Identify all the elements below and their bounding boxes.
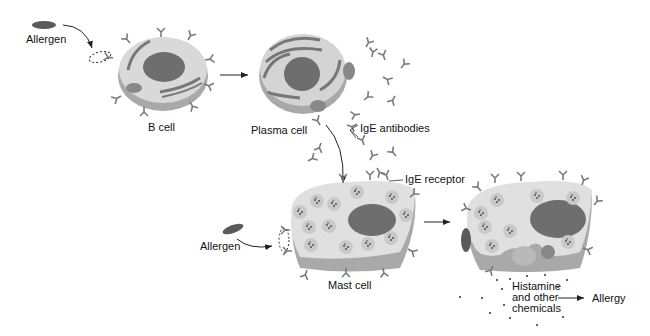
label-histamine: Histamine and other chemicals (512, 281, 561, 314)
label-plasma-cell: Plasma cell (251, 124, 307, 136)
allergen-bottom (221, 221, 244, 236)
label-histamine-line3: chemicals (512, 303, 561, 314)
label-ige-receptor: IgE receptor (405, 173, 465, 185)
label-allergy: Allergy (592, 292, 626, 304)
plasma-cell (259, 34, 355, 114)
b-cell (103, 28, 214, 116)
label-b-cell: B cell (148, 121, 175, 133)
arrow-allergen-to-mast (237, 239, 272, 247)
allergen-top (32, 21, 56, 29)
arrow-allergen-to-bcell (63, 25, 92, 48)
mast-cell (281, 170, 419, 280)
degranulating-mast-cell (461, 171, 603, 276)
label-allergen-bottom: Allergen (200, 240, 240, 252)
arrow-plasma-to-mast (326, 125, 343, 183)
label-allergen-top: Allergen (26, 33, 66, 45)
label-mast-cell: Mast cell (328, 279, 371, 291)
allergen-bound (461, 228, 471, 252)
label-ige-antibodies: IgE antibodies (360, 122, 430, 134)
